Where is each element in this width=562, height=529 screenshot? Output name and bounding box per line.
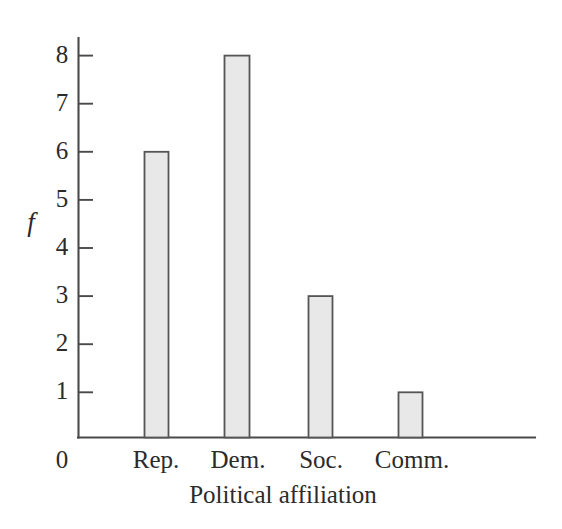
bar-dem — [225, 56, 250, 438]
y-tick-label-5: 5 — [56, 185, 69, 212]
y-axis-title: f — [27, 207, 38, 237]
y-tick-label-4: 4 — [56, 233, 69, 260]
bar-rep — [145, 152, 169, 438]
y-tick-label-8: 8 — [56, 41, 69, 68]
y-tick-label-1: 1 — [56, 377, 69, 404]
x-tick-label-dem: Dem. — [211, 446, 266, 473]
x-tick-labels-group: Rep. Dem. Soc. Comm. — [133, 446, 449, 473]
y-tick-labels-group: 1 2 3 4 5 6 7 8 — [56, 41, 69, 404]
x-axis-title: Political affiliation — [189, 481, 377, 508]
chart-canvas: 1 2 3 4 5 6 7 8 0 f Rep. Dem. Soc. Comm. — [0, 0, 562, 529]
y-tick-label-6: 6 — [56, 137, 69, 164]
x-tick-label-soc: Soc. — [299, 446, 343, 473]
origin-zero-label: 0 — [56, 446, 69, 473]
bar-soc — [309, 296, 333, 437]
y-tick-label-7: 7 — [56, 89, 69, 116]
x-tick-label-comm: Comm. — [375, 446, 449, 473]
y-tick-label-2: 2 — [56, 329, 69, 356]
bar-chart-figure: 1 2 3 4 5 6 7 8 0 f Rep. Dem. Soc. Comm. — [0, 0, 562, 529]
bar-comm — [399, 392, 423, 437]
x-tick-label-rep: Rep. — [133, 446, 180, 473]
y-tick-label-3: 3 — [56, 281, 69, 308]
y-tick-marks-group — [79, 56, 93, 393]
bars-group — [145, 56, 423, 438]
